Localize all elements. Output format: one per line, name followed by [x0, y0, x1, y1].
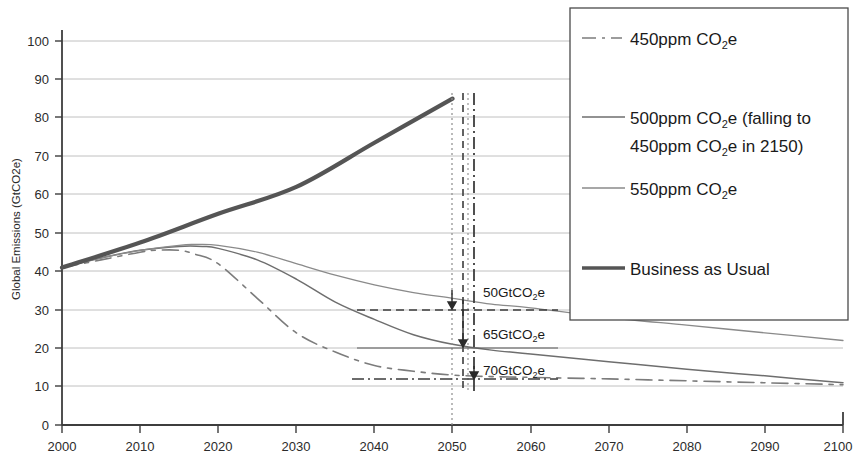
- x-tick-marks: [62, 425, 843, 433]
- x-label-2090: 2090: [751, 439, 780, 454]
- y-label-80: 80: [35, 110, 49, 125]
- x-tick-labels: 2000 2010 2020 2030 2040 2050 2060 2070 …: [48, 439, 853, 454]
- emissions-chart: 100 90 80 70 60 50 40 30 20 10 0 2000 20…: [0, 0, 857, 459]
- x-label-2070: 2070: [595, 439, 624, 454]
- annotation-70gtco2e: 70GtCO2e: [483, 363, 545, 380]
- y-tick-marks: [55, 41, 62, 425]
- annotation-50gtco2e: 50GtCO2e: [483, 285, 545, 302]
- legend-label-450ppm: 450ppm CO2e: [630, 30, 737, 51]
- y-label-20: 20: [35, 341, 49, 356]
- y-axis-title: Global Emissions (GtCO2e): [10, 158, 22, 300]
- y-label-0: 0: [42, 418, 49, 433]
- x-label-2010: 2010: [126, 439, 155, 454]
- y-label-30: 30: [35, 303, 49, 318]
- x-label-2100: 2100: [824, 439, 853, 454]
- x-label-2050: 2050: [438, 439, 467, 454]
- x-label-2060: 2060: [517, 439, 546, 454]
- legend-label-500ppm-line1: 500ppm CO2e (falling to: [630, 109, 811, 130]
- x-label-2040: 2040: [360, 439, 389, 454]
- x-label-2080: 2080: [673, 439, 702, 454]
- y-label-60: 60: [35, 187, 49, 202]
- series-path-3: [62, 99, 453, 268]
- arrow-down-70gt: [470, 366, 478, 379]
- y-label-100: 100: [27, 34, 49, 49]
- legend-label-bau: Business as Usual: [630, 260, 770, 279]
- y-tick-labels: 100 90 80 70 60 50 40 30 20 10 0: [27, 34, 49, 433]
- arrow-down-65gt: [459, 300, 467, 347]
- arrow-down-50gt: [448, 290, 456, 309]
- annotation-labels: 50GtCO2e 65GtCO2e 70GtCO2e: [483, 285, 545, 380]
- y-label-90: 90: [35, 72, 49, 87]
- chart-canvas: 100 90 80 70 60 50 40 30 20 10 0 2000 20…: [0, 0, 857, 459]
- x-label-2020: 2020: [204, 439, 233, 454]
- legend-label-500ppm-line2: 450ppm CO2e in 2150): [630, 137, 803, 158]
- x-label-2000: 2000: [48, 439, 77, 454]
- legend-label-550ppm: 550ppm CO2e: [630, 180, 737, 201]
- y-label-70: 70: [35, 149, 49, 164]
- chart-legend: 450ppm CO2e 500ppm CO2e (falling to 450p…: [570, 8, 848, 320]
- annotation-65gtco2e: 65GtCO2e: [483, 327, 545, 344]
- y-label-10: 10: [35, 379, 49, 394]
- y-label-50: 50: [35, 226, 49, 241]
- y-label-40: 40: [35, 264, 49, 279]
- x-label-2030: 2030: [282, 439, 311, 454]
